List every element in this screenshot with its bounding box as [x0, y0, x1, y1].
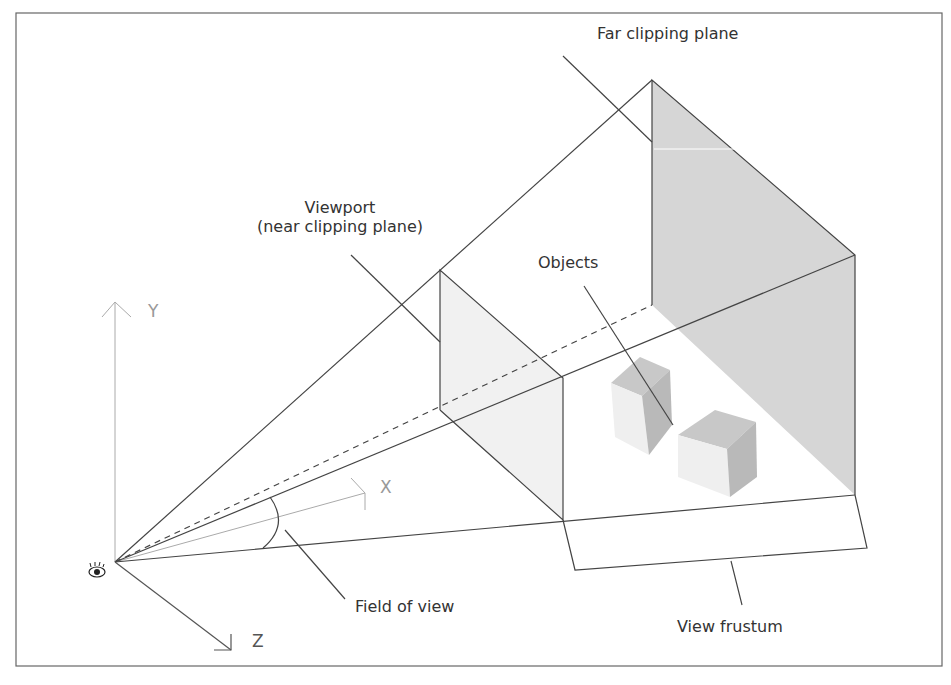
z-axis [115, 562, 231, 650]
coordinate-axes [102, 302, 365, 562]
objects-label: Objects [538, 253, 598, 272]
z-axis-label: Z [252, 632, 264, 651]
object-cube-2 [678, 410, 757, 497]
object-cube-1 [611, 357, 672, 455]
field-of-view-label: Field of view [355, 597, 454, 616]
hidden-edge [115, 305, 652, 562]
viewport-label: Viewport (near clipping plane) [225, 198, 455, 236]
y-axis-label: Y [148, 302, 158, 321]
view-frustum-label: View frustum [677, 617, 783, 636]
eye-icon [89, 562, 105, 577]
viewport-label-line1: Viewport [225, 198, 455, 217]
field-of-view-arc [263, 497, 279, 548]
viewport-label-line2: (near clipping plane) [225, 217, 455, 236]
far-clipping-plane-label: Far clipping plane [597, 24, 738, 43]
near-clipping-plane [440, 270, 563, 520]
x-axis-label: X [380, 478, 392, 497]
view-frustum-diagram: Far clipping plane Viewport (near clippi… [0, 0, 951, 685]
diagram-canvas [0, 0, 951, 685]
